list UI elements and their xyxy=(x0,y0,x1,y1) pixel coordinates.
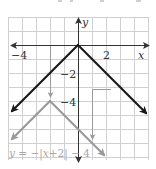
x-tick-label-neg4: −4 xyxy=(11,49,27,62)
y-axis-label: y xyxy=(81,16,89,29)
transformation-graph: −4 2 −2 −4 x y y = −|x+2| − 4 xyxy=(0,0,156,169)
equation-label: y = −|x+2| − 4 xyxy=(8,147,90,161)
y-tick-label-neg2: −2 xyxy=(60,68,76,81)
x-tick-label-2: 2 xyxy=(103,49,110,62)
cropped-text-fragment xyxy=(58,0,141,2)
point-shift-arrow xyxy=(93,90,112,140)
x-axis-label: x xyxy=(138,49,145,62)
y-tick-label-neg4: −4 xyxy=(60,96,76,109)
